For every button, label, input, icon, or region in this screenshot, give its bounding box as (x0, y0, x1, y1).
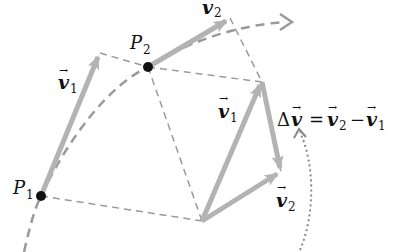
dotted-pointer-arrowhead-icon (294, 129, 306, 138)
vector-arrow-icon: → (203, 0, 212, 3)
point-p2 (143, 62, 153, 72)
label-p2: P 2 (129, 32, 151, 57)
dotted-pointer-arrow (300, 132, 311, 250)
v2-triangle-subscript: 2 (288, 200, 296, 214)
velocity-change-diagram: P 1 P 2 → v 1 v 2 → v 1 → v 2 Δ → v = → … (0, 0, 409, 252)
label-v2-triangle: → v 2 (276, 181, 296, 214)
label-v1-triangle: → v 1 (218, 92, 238, 125)
label-v2-path: v 2 (202, 0, 222, 20)
v1-path-subscript: 1 (70, 82, 78, 96)
p2-subscript: 2 (143, 43, 151, 57)
v2-triangle-symbol: v (276, 189, 288, 211)
point-p1 (36, 191, 46, 201)
v2-vector-at-p2 (148, 21, 226, 67)
v1-triangle-symbol: v (218, 100, 230, 122)
eq-v2-subscript: 2 (339, 119, 347, 133)
v1-triangle-subscript: 1 (230, 111, 238, 125)
delta-v-symbol: v (291, 108, 303, 130)
minus-sign: − (350, 109, 365, 130)
v1-vector-at-p1 (41, 57, 98, 196)
delta-symbol: Δ (277, 109, 290, 130)
equation-delta-v: Δ → v = → v 2 − → v 1 (277, 101, 386, 133)
eq-v1-symbol: v (366, 108, 378, 130)
equals-sign: = (309, 109, 324, 130)
eq-v2-symbol: v (327, 108, 339, 130)
eq-v1-subscript: 1 (378, 119, 386, 133)
p1-letter: P (12, 177, 26, 198)
p1-subscript: 1 (26, 188, 34, 202)
v2-path-subscript: 2 (214, 6, 222, 20)
trajectory-arrowhead-icon (280, 14, 292, 30)
v1-path-symbol: v (58, 71, 70, 93)
label-p1: P 1 (12, 177, 34, 202)
label-v1-path: → v 1 (58, 64, 78, 96)
p2-letter: P (129, 32, 143, 53)
